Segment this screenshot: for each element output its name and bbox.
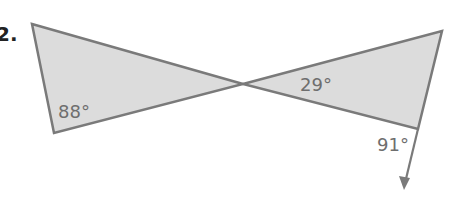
angle-label-29: 29° xyxy=(300,74,332,95)
angle-label-91: 91° xyxy=(377,134,409,155)
right-triangle xyxy=(243,31,442,129)
arrowhead-icon xyxy=(399,176,410,190)
bowtie-triangles-figure: 88° 29° 91° xyxy=(0,0,459,199)
angle-label-88: 88° xyxy=(58,101,90,122)
